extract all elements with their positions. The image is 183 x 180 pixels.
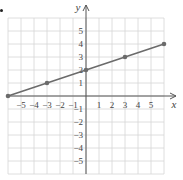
x-tick-label: 3 (123, 100, 128, 110)
y-tick-label: 3 (79, 52, 84, 62)
data-point (84, 68, 89, 73)
y-tick-label: 1 (79, 78, 84, 88)
x-tick-label: −2 (55, 100, 65, 110)
y-tick-label: 4 (79, 39, 84, 49)
y-tick-label: −4 (73, 143, 83, 153)
x-tick-label: 1 (97, 100, 102, 110)
x-tick-label: −5 (16, 100, 26, 110)
y-tick-label: 5 (79, 26, 84, 36)
y-tick-label: −5 (73, 156, 83, 166)
y-axis-label: y (75, 1, 81, 13)
x-tick-label: −3 (42, 100, 52, 110)
y-tick-label: 2 (79, 65, 84, 75)
x-tick-label: −4 (29, 100, 39, 110)
y-tick-label: −2 (73, 117, 83, 127)
y-tick-label: −1 (73, 104, 83, 114)
x-tick-label: 2 (110, 100, 115, 110)
x-tick-label: 4 (136, 100, 141, 110)
y-tick-label: −3 (73, 130, 83, 140)
coordinate-plane: xy−5−4−3−2−11234554321−1−2−3−4−5 (0, 0, 183, 180)
data-point (45, 81, 50, 86)
data-point (6, 94, 11, 99)
data-point (123, 55, 128, 60)
x-tick-label: 5 (149, 100, 154, 110)
x-axis-label: x (171, 98, 177, 110)
data-point (162, 42, 167, 47)
